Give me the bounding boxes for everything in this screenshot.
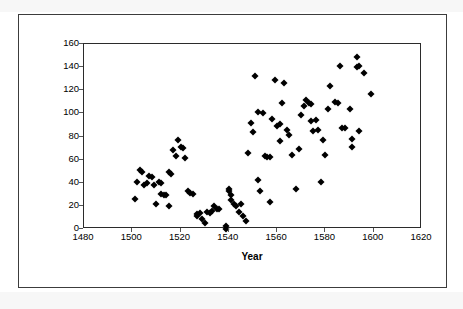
data-point — [286, 132, 293, 139]
scatter-chart: 020406080100120140160 148015001520154015… — [19, 15, 448, 289]
data-point — [201, 220, 208, 227]
data-point — [172, 153, 179, 160]
data-point — [259, 110, 266, 117]
data-point — [247, 119, 254, 126]
data-point — [278, 99, 285, 106]
data-point — [182, 155, 189, 162]
data-point — [312, 117, 319, 124]
data-point — [153, 200, 160, 207]
x-axis-tick-label: 1520 — [169, 232, 190, 242]
x-axis-tick-labels: 14801500152015401560158016001620 — [19, 232, 448, 246]
x-axis-tick-label: 1540 — [217, 232, 238, 242]
data-point — [158, 179, 165, 186]
data-point — [249, 128, 256, 135]
data-point — [295, 146, 302, 153]
data-point — [353, 53, 360, 60]
data-point — [276, 138, 283, 145]
data-point — [348, 135, 355, 142]
y-axis-tick-label: 40 — [68, 177, 79, 187]
x-axis-tick-label: 1620 — [410, 232, 431, 242]
data-point — [322, 151, 329, 158]
data-point — [293, 185, 300, 192]
x-axis-title: Year — [83, 251, 421, 262]
x-axis-tick-label: 1580 — [314, 232, 335, 242]
data-point — [148, 173, 155, 180]
x-axis-tick-label: 1560 — [266, 232, 287, 242]
y-axis-tick-label: 20 — [68, 200, 79, 210]
data-point — [368, 90, 375, 97]
y-axis-tick-label: 160 — [63, 38, 79, 48]
data-point — [327, 82, 334, 89]
data-point — [131, 195, 138, 202]
data-point — [346, 105, 353, 112]
y-axis-tick-label: 60 — [68, 154, 79, 164]
data-point — [281, 80, 288, 87]
data-point — [254, 177, 261, 184]
data-point — [266, 199, 273, 206]
data-point — [315, 126, 322, 133]
y-axis-tick-label: 120 — [63, 85, 79, 95]
scan-artifact-top — [0, 0, 463, 12]
data-point — [242, 217, 249, 224]
data-point — [165, 202, 172, 209]
x-axis-tick-label: 1500 — [121, 232, 142, 242]
data-point — [288, 151, 295, 158]
data-point — [317, 178, 324, 185]
data-point — [298, 111, 305, 118]
y-axis-tick-mark — [79, 228, 83, 229]
x-axis-tick-label: 1600 — [362, 232, 383, 242]
data-points-layer — [84, 44, 420, 227]
data-point — [257, 187, 264, 194]
data-point — [336, 62, 343, 69]
data-point — [361, 69, 368, 76]
y-axis-tick-labels: 020406080100120140160 — [45, 43, 79, 228]
data-point — [189, 191, 196, 198]
y-axis-tick-label: 100 — [63, 108, 79, 118]
y-axis-tick-label: 140 — [63, 61, 79, 71]
data-point — [138, 169, 145, 176]
plot-area — [83, 43, 421, 228]
data-point — [269, 116, 276, 123]
scan-artifact-bottom — [0, 292, 463, 309]
data-point — [324, 105, 331, 112]
y-axis-tick-label: 80 — [68, 131, 79, 141]
figure-frame: 020406080100120140160 148015001520154015… — [18, 14, 447, 288]
data-point — [245, 149, 252, 156]
data-point — [252, 73, 259, 80]
data-point — [271, 76, 278, 83]
x-axis-tick-label: 1480 — [72, 232, 93, 242]
data-point — [348, 143, 355, 150]
data-point — [356, 127, 363, 134]
data-point — [319, 136, 326, 143]
